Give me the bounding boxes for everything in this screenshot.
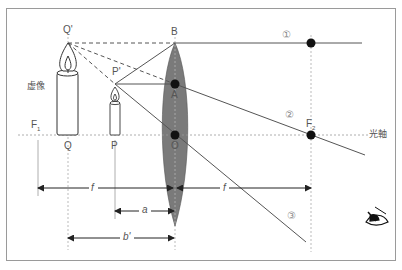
object-candle	[110, 87, 120, 135]
label-f-left: f	[91, 183, 94, 193]
points	[171, 39, 316, 140]
solid-guides	[38, 140, 115, 219]
eye-icon	[366, 207, 388, 225]
virtual-image-candle	[57, 43, 78, 135]
label-virtual-image: 虚像	[27, 82, 45, 91]
rays	[115, 43, 365, 242]
label-o: O	[171, 141, 179, 151]
label-q: Q	[64, 141, 72, 151]
label-p: P	[111, 141, 118, 151]
lens-diagram	[0, 0, 402, 270]
label-p-prime: P'	[112, 67, 121, 77]
label-a-distance: a	[142, 205, 148, 215]
label-f2: F2	[306, 119, 315, 131]
label-q-prime: Q'	[63, 25, 73, 35]
label-f1: F1	[31, 120, 40, 132]
label-f-right: f	[223, 183, 226, 193]
label-ray-3: ③	[287, 211, 296, 221]
label-b-prime-distance: b'	[123, 232, 130, 242]
virtual-rays	[68, 43, 175, 84]
label-b: B	[171, 27, 178, 37]
label-ray-1: ①	[282, 30, 291, 40]
guide-lines	[68, 35, 311, 252]
label-optical-axis: 光軸	[369, 130, 387, 139]
label-a: A	[171, 90, 178, 100]
label-ray-2: ②	[285, 110, 294, 120]
